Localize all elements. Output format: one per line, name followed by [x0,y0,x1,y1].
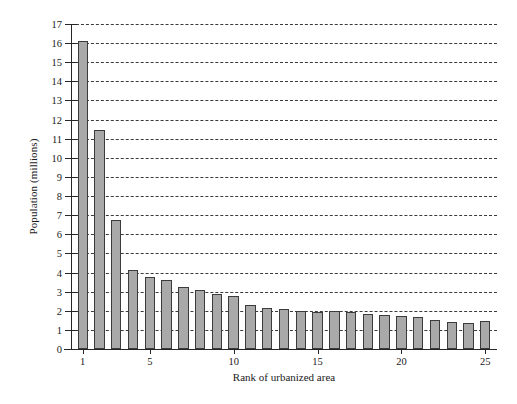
y-axis-title: Population (millions) [22,24,44,349]
bar [396,316,406,349]
bar [430,320,440,349]
bar [78,41,88,349]
gridline [71,196,497,197]
gridline [71,215,497,216]
bar-chart-figure: Population (millions) 012345678910111213… [0,0,517,404]
gridline [71,253,497,254]
x-axis-tick-label: 5 [147,356,152,367]
plot-area: 01234567891011121314151617 1510152025 [71,24,497,349]
bar [94,130,104,349]
y-axis-tick-label: 9 [57,171,62,182]
gridline [71,139,497,140]
y-axis-tick-label: 11 [52,133,62,144]
bar [178,287,188,349]
gridline [71,43,497,44]
y-axis-tick-label: 2 [57,305,62,316]
bar [262,308,272,349]
bar [128,270,138,349]
y-axis-tick-label: 15 [52,57,63,68]
bar [296,311,306,349]
y-axis-tick-label: 8 [57,191,62,202]
x-axis-tick-label: 25 [480,356,491,367]
bar [279,309,289,349]
bar [312,312,322,349]
y-axis-tick-label: 4 [57,267,62,278]
y-axis-tick-label: 17 [52,19,63,30]
x-axis-title: Rank of urbanized area [71,371,497,383]
gridline [71,24,497,25]
y-axis-tick-label: 0 [57,344,62,355]
y-axis-tick-label: 6 [57,229,62,240]
y-axis-tick-label: 7 [57,210,62,221]
y-axis-tick-label: 1 [57,324,62,335]
bar [161,280,171,349]
gridline [71,81,497,82]
bar [463,323,473,349]
x-axis-tick-label: 20 [396,356,407,367]
bar [346,312,356,349]
gridline [71,234,497,235]
x-axis-tick-label: 15 [312,356,323,367]
bar [145,277,155,349]
x-axis-tick-label: 10 [228,356,239,367]
gridline [71,120,497,121]
x-axis-spine [64,349,497,350]
bar [329,311,339,349]
gridline [71,100,497,101]
y-axis-tick-label: 5 [57,248,62,259]
y-axis-tick-label: 3 [57,286,62,297]
y-axis-spine [71,24,72,349]
bar [447,322,457,349]
gridline [71,158,497,159]
bar [228,296,238,349]
y-axis-tick-label: 13 [52,95,63,106]
bar [363,314,373,349]
y-axis-tick-label: 14 [52,76,63,87]
bar [480,321,490,349]
bar [212,294,222,349]
gridline [71,62,497,63]
bar [245,305,255,349]
y-axis-tick-label: 12 [52,114,63,125]
y-axis-tick-label: 10 [52,152,63,163]
bar [195,290,205,349]
bar [413,317,423,350]
gridline [71,177,497,178]
x-axis-tick-label: 1 [80,356,85,367]
bar [379,315,389,349]
y-axis-tick-label: 16 [52,38,63,49]
bar [111,220,121,349]
